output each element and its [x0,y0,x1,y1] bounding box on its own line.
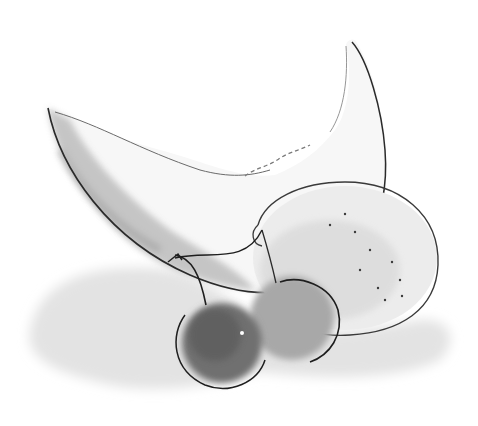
illustration-svg [0,0,478,426]
fruit-illustration [0,0,478,426]
